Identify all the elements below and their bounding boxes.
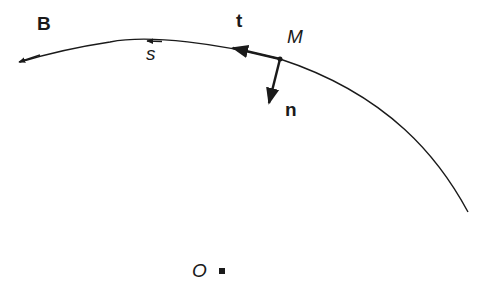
normal-vector xyxy=(269,59,280,103)
point-m-dot xyxy=(278,57,283,62)
curve-end-arrow xyxy=(19,55,40,62)
origin-label-b: B xyxy=(37,14,51,33)
tangent-label-t: t xyxy=(236,11,242,30)
arc-coordinate-label-s: s xyxy=(146,44,156,63)
arc-direction-arrow xyxy=(147,41,162,42)
center-o-marker xyxy=(219,268,225,274)
tangent-vector xyxy=(233,48,280,59)
normal-label-n: n xyxy=(285,100,297,119)
trajectory-diagram xyxy=(0,0,478,296)
trajectory-curve xyxy=(20,39,468,212)
point-label-m: M xyxy=(287,27,303,46)
center-label-o: O xyxy=(192,261,207,280)
